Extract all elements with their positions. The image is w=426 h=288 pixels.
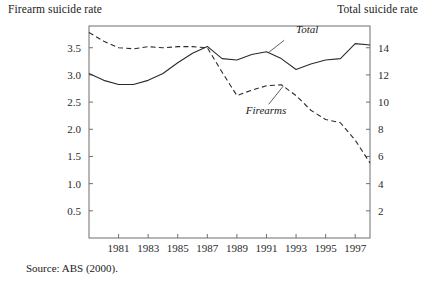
x-tick-label: 1991 — [255, 242, 277, 254]
y-tick-label-right: 6 — [378, 150, 384, 162]
y-tick-label-right: 8 — [378, 123, 384, 135]
y-tick-label-left: 2.5 — [67, 96, 81, 108]
y-tick-label-left: 3.5 — [67, 42, 81, 54]
series-paths — [89, 33, 370, 163]
x-tick-label: 1997 — [344, 242, 367, 254]
line-chart: 198119831985198719891991199319951997 0.5… — [0, 0, 426, 288]
series-annotation-total: Total — [296, 23, 318, 35]
y-tick-label-left: 0.5 — [67, 205, 81, 217]
plot-frame — [89, 26, 370, 238]
x-tick-label: 1981 — [108, 242, 130, 254]
y-tick-label-left: 1.0 — [67, 178, 81, 190]
y-tick-label-right: 10 — [378, 96, 390, 108]
y-tick-label-right: 4 — [378, 178, 384, 190]
y-tick-label-left: 2.0 — [67, 123, 81, 135]
x-axis-ticks: 198119831985198719891991199319951997 — [108, 234, 367, 254]
x-tick-label: 1985 — [167, 242, 190, 254]
source-note: Source: ABS (2000). — [26, 262, 118, 274]
y-tick-label-right: 2 — [378, 205, 384, 217]
x-tick-label: 1989 — [226, 242, 249, 254]
series-line-firearms — [89, 33, 370, 163]
series-annotations: TotalFirearms — [245, 23, 319, 116]
y-tick-label-left: 3.0 — [67, 69, 81, 81]
x-tick-label: 1993 — [285, 242, 308, 254]
x-tick-label: 1987 — [196, 242, 219, 254]
series-annotation-firearms: Firearms — [245, 104, 287, 116]
y-tick-label-right: 12 — [378, 69, 389, 81]
chart-figure: Firearm suicide rate Total suicide rate … — [0, 0, 426, 288]
y-tick-label-right: 14 — [378, 42, 390, 54]
x-tick-label: 1995 — [315, 242, 338, 254]
y-tick-label-left: 1.5 — [67, 150, 81, 162]
series-line-total — [89, 44, 370, 85]
x-tick-label: 1983 — [137, 242, 160, 254]
annotation-leader-line — [268, 40, 284, 53]
annotation-leader-line — [269, 86, 284, 104]
